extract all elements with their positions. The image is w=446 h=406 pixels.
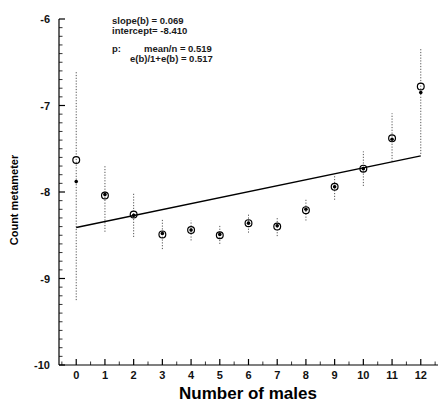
x-tick-label: 0 xyxy=(73,369,79,381)
plot-background xyxy=(0,0,446,406)
data-point-filled-dot xyxy=(390,137,394,141)
x-tick-label: 8 xyxy=(303,369,309,381)
data-point-filled-dot xyxy=(275,224,279,228)
data-point-filled-dot xyxy=(218,233,222,237)
x-tick-label: 4 xyxy=(188,369,195,381)
x-tick-label: 7 xyxy=(274,369,280,381)
y-tick-label: -8 xyxy=(40,186,50,198)
annotation-p-ebe: e(b)/1+e(b) = 0.517 xyxy=(130,53,213,64)
annotation-intercept: intercept= -8.410 xyxy=(112,25,187,36)
x-tick-label: 5 xyxy=(217,369,223,381)
x-axis-title: Number of males xyxy=(179,384,317,403)
data-point-filled-dot xyxy=(74,180,78,184)
data-point-filled-dot xyxy=(304,208,308,212)
chart-figure: -6-7-8-9-10 0123456789101112 Number of m… xyxy=(0,0,446,406)
x-tick-label: 9 xyxy=(332,369,338,381)
data-point-filled-dot xyxy=(161,232,165,236)
scatter-plot-svg: -6-7-8-9-10 0123456789101112 Number of m… xyxy=(0,0,446,406)
data-point-filled-dot xyxy=(103,193,107,197)
data-point-filled-dot xyxy=(132,214,136,218)
x-tick-label: 10 xyxy=(357,369,369,381)
x-tick-label: 12 xyxy=(415,369,427,381)
data-point-filled-dot xyxy=(419,91,423,95)
x-tick-label: 3 xyxy=(159,369,165,381)
annotation-p-label: p: xyxy=(112,43,121,54)
data-point-filled-dot xyxy=(189,228,193,232)
x-tick-label: 1 xyxy=(102,369,108,381)
y-tick-label: -10 xyxy=(34,359,50,371)
x-tick-label: 11 xyxy=(386,369,398,381)
y-tick-label: -9 xyxy=(40,273,50,285)
y-axis-title: Count metameter xyxy=(8,154,20,245)
data-point-filled-dot xyxy=(333,185,337,189)
x-tick-label: 6 xyxy=(245,369,251,381)
y-tick-label: -7 xyxy=(40,100,50,112)
x-tick-label: 2 xyxy=(131,369,137,381)
data-point-filled-dot xyxy=(247,221,251,225)
data-point-filled-dot xyxy=(362,167,366,171)
y-tick-label: -6 xyxy=(40,13,50,25)
